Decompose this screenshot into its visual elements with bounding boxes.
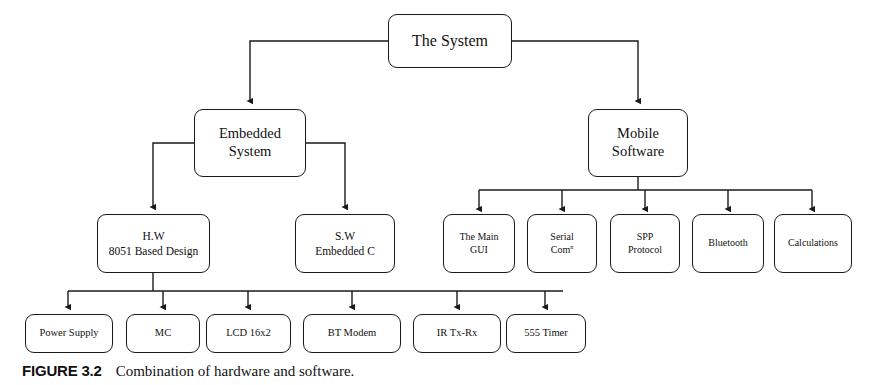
node-bluetooth-line-0: Bluetooth <box>708 237 747 249</box>
node-sw-embedded-c: S.W Embedded C <box>295 214 395 273</box>
block-diagram: The System Embedded System Mobile Softwa… <box>0 0 878 385</box>
node-the-main-gui-line-1: GUI <box>470 244 488 256</box>
node-serial-comn-superscript: n <box>570 243 573 250</box>
figure-caption-text: Combination of hardware and software. <box>116 363 355 379</box>
node-calculations-line-0: Calculations <box>788 237 838 249</box>
node-spp-protocol: SPP Protocol <box>610 214 680 273</box>
node-serial-comn-line-1: Comn <box>551 243 574 257</box>
figure-label: FIGURE 3.2 <box>22 362 102 379</box>
node-hw-8051: H.W 8051 Based Design <box>97 214 210 273</box>
node-bt-modem-line-0: BT Modem <box>328 327 377 340</box>
figure-caption: FIGURE 3.2Combination of hardware and so… <box>22 362 872 380</box>
node-mobile-software-line-1: Software <box>612 143 664 161</box>
node-hw-8051-line-1: 8051 Based Design <box>109 244 198 258</box>
node-mc: MC <box>126 314 200 353</box>
node-embedded-system: Embedded System <box>194 109 306 177</box>
node-power-supply-line-0: Power Supply <box>39 327 98 340</box>
node-spp-protocol-line-1: Protocol <box>628 244 662 256</box>
node-the-system-line-0: The System <box>412 31 488 51</box>
node-the-main-gui: The Main GUI <box>443 214 515 273</box>
node-mobile-software: Mobile Software <box>588 109 688 177</box>
node-lcd-16x2: LCD 16x2 <box>206 314 291 353</box>
node-the-main-gui-line-0: The Main <box>459 231 498 243</box>
node-serial-comn: Serial Comn <box>527 214 597 273</box>
node-embedded-system-line-0: Embedded <box>219 125 281 143</box>
node-mc-line-0: MC <box>155 327 171 340</box>
node-spp-protocol-line-0: SPP <box>637 231 654 243</box>
node-sw-embedded-c-line-1: Embedded C <box>315 244 375 258</box>
node-embedded-system-line-1: System <box>229 143 272 161</box>
node-555-timer: 555 Timer <box>506 314 586 353</box>
node-bt-modem: BT Modem <box>303 314 401 353</box>
node-ir-tx-rx-line-0: IR Tx-Rx <box>437 327 477 340</box>
node-serial-comn-line-0: Serial <box>550 231 573 243</box>
node-mobile-software-line-0: Mobile <box>617 125 659 143</box>
node-serial-comn-line-1-text: Com <box>551 244 570 255</box>
node-ir-tx-rx: IR Tx-Rx <box>413 314 501 353</box>
node-calculations: Calculations <box>774 214 852 273</box>
node-power-supply: Power Supply <box>25 314 113 353</box>
node-bluetooth: Bluetooth <box>692 214 764 273</box>
node-lcd-16x2-line-0: LCD 16x2 <box>226 327 271 340</box>
node-sw-embedded-c-line-0: S.W <box>335 229 355 243</box>
node-the-system: The System <box>388 14 512 68</box>
node-555-timer-line-0: 555 Timer <box>524 327 567 340</box>
node-hw-8051-line-0: H.W <box>142 229 164 243</box>
